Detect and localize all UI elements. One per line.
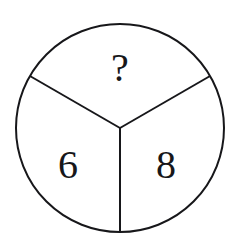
bottom-left-sector-label: 6 [58, 142, 78, 187]
puzzle-figure: ? 6 8 [0, 0, 232, 248]
top-sector-label: ? [111, 45, 129, 90]
spoke-upper-right-line [120, 76, 210, 128]
circle-diagram: ? 6 8 [0, 0, 232, 248]
bottom-right-sector-label: 8 [156, 142, 176, 187]
spoke-upper-left-line [30, 76, 120, 128]
